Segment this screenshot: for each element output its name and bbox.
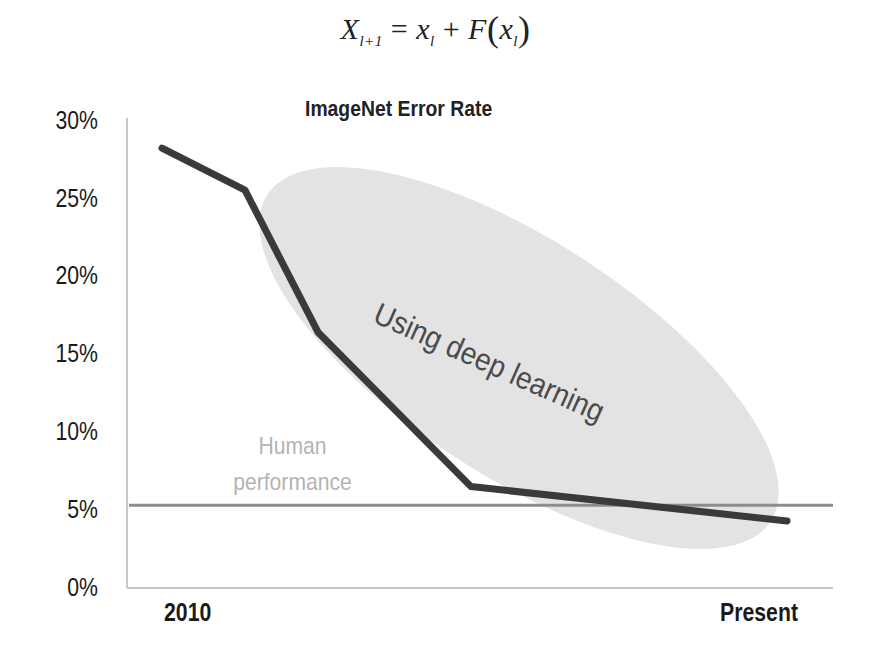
y-tick-label: 20% <box>32 261 98 290</box>
y-tick-label: 10% <box>32 417 98 446</box>
chart-title: ImageNet Error Rate <box>305 96 492 122</box>
y-tick-label: 5% <box>32 495 98 524</box>
human-label-line1: Human <box>224 428 360 464</box>
y-tick-label: 15% <box>32 339 98 368</box>
x-tick-label-end: Present <box>720 598 798 627</box>
y-tick-label: 0% <box>32 573 98 602</box>
human-performance-label: Human performance <box>224 428 360 500</box>
y-tick-label: 30% <box>32 106 98 135</box>
y-tick-label: 25% <box>32 184 98 213</box>
x-tick-label-start: 2010 <box>164 598 211 627</box>
human-label-line2: performance <box>224 464 360 500</box>
